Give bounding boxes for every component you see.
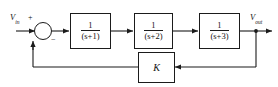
fraction-1-numerator: 1	[81, 21, 99, 31]
output-label-subscript: out	[255, 19, 262, 25]
feedback-gain-block: K	[138, 52, 175, 83]
fraction-2-denominator: (s+2)	[144, 31, 162, 41]
fraction-2-numerator: 1	[144, 21, 162, 31]
fraction-3: 1 (s+3)	[210, 21, 228, 41]
summing-junction-plus-sign: +	[28, 14, 33, 22]
fraction-1-denominator: (s+1)	[81, 31, 99, 41]
transfer-function-block-3: 1 (s+3)	[199, 13, 240, 49]
block-diagram: Vin Vout + − 1 (s+1) 1 (s+2) 1 (s+3) K	[0, 0, 278, 87]
output-label: Vout	[250, 13, 262, 24]
fraction-2: 1 (s+2)	[144, 21, 162, 41]
transfer-function-block-1: 1 (s+1)	[70, 13, 111, 49]
feedback-gain-label: K	[153, 62, 160, 73]
fraction-3-numerator: 1	[210, 21, 228, 31]
input-label: Vin	[10, 13, 19, 24]
input-label-subscript: in	[15, 19, 19, 25]
fraction-3-denominator: (s+3)	[210, 31, 228, 41]
transfer-function-block-2: 1 (s+2)	[134, 13, 173, 49]
fraction-1: 1 (s+1)	[81, 21, 99, 41]
summing-junction	[34, 22, 52, 40]
summing-junction-minus-sign: −	[51, 36, 56, 44]
